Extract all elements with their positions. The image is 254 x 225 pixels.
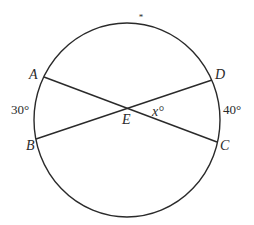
point-label-c: C <box>220 138 230 153</box>
arc-ab-measure: 30° <box>11 102 29 117</box>
point-label-b: B <box>26 138 35 153</box>
point-label-a: A <box>28 67 38 82</box>
top-marker: * <box>139 12 144 22</box>
point-label-e: E <box>121 112 131 127</box>
intersecting-chords-diagram: * A B C D E 30° 40° x° <box>0 0 254 225</box>
angle-x-label: x° <box>151 104 164 119</box>
point-label-d: D <box>214 67 225 82</box>
arc-dc-measure: 40° <box>223 102 241 117</box>
